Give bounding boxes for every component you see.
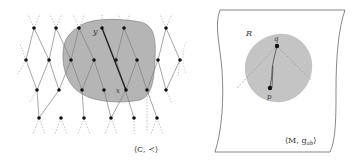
manifold-diagram: q p R ⟨M, gab⟩	[183, 10, 345, 152]
figure-canvas: y x ⟨C, ≺⟩ q p R ⟨M, gab⟩	[0, 0, 356, 162]
causal-set-label: ⟨C, ≺⟩	[134, 145, 158, 154]
point-label-q: q	[274, 35, 279, 43]
node-label-x: x	[116, 87, 120, 95]
point-label-p: p	[267, 93, 272, 101]
node-label-y: y	[92, 27, 98, 36]
region-label-R: R	[245, 29, 252, 38]
point-p	[268, 86, 272, 90]
causal-region	[63, 19, 155, 102]
point-q	[275, 44, 279, 48]
causal-set-diagram: y x ⟨C, ≺⟩	[18, 14, 182, 154]
